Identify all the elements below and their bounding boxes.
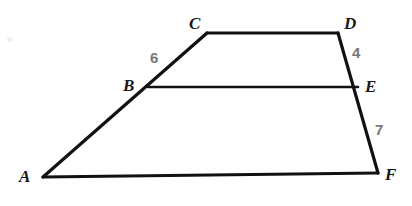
vertex-label-D: D bbox=[344, 15, 356, 32]
segment-A-C bbox=[43, 33, 207, 177]
measure-label-EF: 7 bbox=[375, 122, 383, 137]
vertex-label-C: C bbox=[189, 15, 200, 32]
segment-A-F bbox=[43, 173, 378, 177]
measure-label-BC: 6 bbox=[150, 50, 158, 65]
geometry-diagram: A B C D E F 6 4 7 bbox=[0, 0, 412, 206]
vertex-label-B: B bbox=[123, 77, 134, 94]
measure-label-DE: 4 bbox=[352, 45, 360, 60]
vertex-label-E: E bbox=[365, 78, 376, 95]
vertex-label-A: A bbox=[19, 168, 30, 185]
vertex-label-F: F bbox=[385, 166, 396, 183]
